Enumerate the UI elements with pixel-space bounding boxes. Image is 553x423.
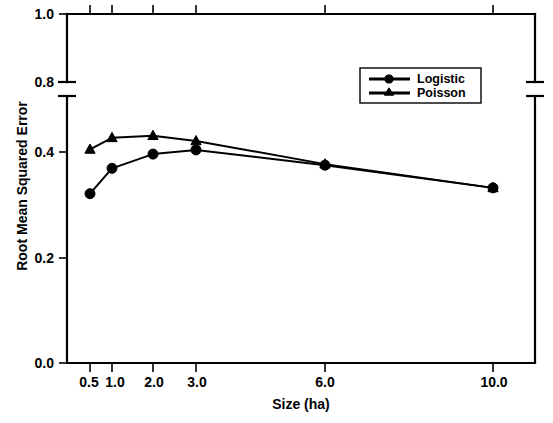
x-axis-title: Size (ha)	[272, 396, 330, 412]
series-logistic	[85, 145, 498, 199]
y-tick-label-0.0: 0.0	[35, 355, 55, 371]
y-tick-label-0.4: 0.4	[35, 144, 55, 160]
data-point-logistic-3.0	[191, 145, 201, 155]
line-chart: 1.0 0.8 0.4 0.2 0.0 0.5 1.0 2.0 3.0 6.0 …	[0, 0, 553, 423]
y-tick-label-0.8: 0.8	[35, 74, 55, 90]
x-tick-label-0.5: 0.5	[79, 374, 99, 390]
legend-label-logistic: Logistic	[417, 72, 465, 86]
data-point-logistic-2.0	[148, 149, 158, 159]
y-tick-label-1.0: 1.0	[35, 6, 55, 22]
x-tick-labels: 0.5 1.0 2.0 3.0 6.0 10.0	[79, 374, 508, 390]
data-series-layer	[85, 130, 498, 198]
y-ticks	[59, 14, 67, 363]
x-ticks-bottom	[90, 363, 493, 372]
x-tick-label-6.0: 6.0	[315, 374, 335, 390]
legend-label-poisson: Poisson	[417, 86, 466, 100]
data-point-logistic-1.0	[107, 163, 117, 173]
x-tick-label-2.0: 2.0	[144, 374, 164, 390]
x-tick-label-3.0: 3.0	[187, 374, 207, 390]
legend[interactable]: Logistic Poisson	[360, 68, 481, 103]
circle-marker-icon	[385, 75, 393, 83]
plot-frame	[67, 14, 535, 363]
x-tick-label-1.0: 1.0	[105, 374, 125, 390]
y-tick-labels: 1.0 0.8 0.4 0.2 0.0	[35, 6, 55, 371]
y-axis-title: Root Mean Squared Error	[14, 101, 30, 271]
y-tick-label-0.2: 0.2	[35, 250, 55, 266]
x-ticks-top	[90, 5, 493, 14]
data-point-poisson-0.5	[85, 144, 95, 153]
chart-figure: 1.0 0.8 0.4 0.2 0.0 0.5 1.0 2.0 3.0 6.0 …	[0, 0, 553, 423]
data-point-logistic-0.5	[85, 189, 95, 199]
x-tick-label-10.0: 10.0	[480, 374, 507, 390]
